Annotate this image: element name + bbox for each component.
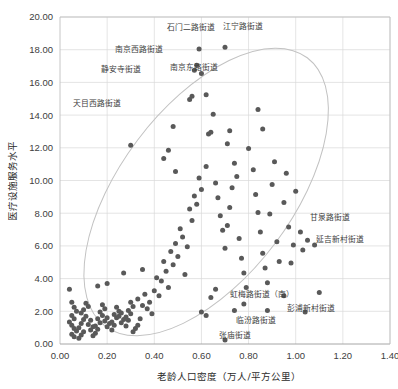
data-point bbox=[147, 300, 152, 305]
chart-canvas: 0.002.004.006.008.0010.0012.0014.0016.00… bbox=[0, 0, 398, 389]
point-annotation-label: 静安寺街道 bbox=[101, 64, 141, 74]
data-point bbox=[166, 148, 171, 153]
data-point bbox=[83, 301, 88, 306]
data-point bbox=[305, 238, 310, 243]
x-tick-label: 0.40 bbox=[145, 350, 164, 361]
data-point bbox=[218, 213, 223, 218]
data-point bbox=[241, 270, 246, 275]
data-point bbox=[126, 308, 131, 313]
data-point bbox=[204, 313, 209, 318]
data-point bbox=[131, 329, 136, 334]
data-point bbox=[145, 306, 150, 311]
data-point bbox=[166, 285, 171, 290]
data-point bbox=[91, 333, 96, 338]
data-point bbox=[124, 324, 129, 329]
data-point bbox=[289, 261, 294, 266]
data-point bbox=[128, 143, 133, 148]
data-point bbox=[138, 316, 143, 321]
x-tick-label: 0.60 bbox=[192, 350, 211, 361]
data-point bbox=[208, 130, 213, 135]
data-point bbox=[102, 319, 107, 324]
y-tick-label: 6.00 bbox=[35, 240, 54, 251]
data-point bbox=[244, 285, 249, 290]
scatter-chart: 0.002.004.006.008.0010.0012.0014.0016.00… bbox=[0, 0, 398, 389]
data-point bbox=[187, 207, 192, 212]
data-point bbox=[81, 307, 86, 312]
data-point bbox=[112, 312, 117, 317]
data-point bbox=[197, 176, 202, 181]
y-tick-label: 8.00 bbox=[35, 208, 54, 219]
data-point bbox=[152, 288, 157, 293]
point-annotation-label: 延吉新村街道 bbox=[316, 234, 364, 244]
data-point bbox=[256, 107, 261, 112]
point-annotation-label: 江宁路街道 bbox=[223, 21, 263, 31]
y-tick-label: 4.00 bbox=[35, 273, 54, 284]
data-point bbox=[204, 92, 209, 97]
data-point bbox=[124, 315, 129, 320]
data-point bbox=[116, 314, 121, 319]
point-annotation-label: 彭浦新村街道 bbox=[287, 303, 335, 313]
data-point bbox=[213, 287, 218, 292]
x-axis-title: 老龄人口密度（万人/平方公里） bbox=[157, 371, 300, 382]
data-point bbox=[281, 200, 286, 205]
data-point bbox=[173, 241, 178, 246]
point-annotation-label: 天目西路街道 bbox=[73, 98, 121, 108]
data-point bbox=[149, 311, 154, 316]
point-annotation-label: 南京西路街道 bbox=[115, 44, 163, 54]
data-point bbox=[194, 202, 199, 207]
data-point bbox=[267, 212, 272, 217]
data-point bbox=[164, 269, 169, 274]
data-point bbox=[256, 210, 261, 215]
y-tick-label: 2.00 bbox=[35, 306, 54, 317]
point-annotation-label: 虹梅路街道（南） bbox=[230, 289, 294, 299]
data-point bbox=[161, 156, 166, 161]
data-point bbox=[171, 262, 176, 267]
x-tick-label: 0.00 bbox=[51, 350, 70, 361]
data-point bbox=[81, 329, 86, 334]
data-point bbox=[135, 297, 140, 302]
data-point bbox=[161, 259, 166, 264]
data-point bbox=[95, 316, 100, 321]
data-point bbox=[72, 334, 77, 339]
data-point bbox=[157, 293, 162, 298]
data-point bbox=[227, 128, 232, 133]
data-point bbox=[171, 124, 176, 129]
data-point bbox=[105, 281, 110, 286]
data-point bbox=[159, 279, 164, 284]
data-point bbox=[83, 314, 88, 319]
y-tick-label: 14.00 bbox=[29, 110, 53, 121]
data-point bbox=[114, 305, 119, 310]
data-point bbox=[140, 267, 145, 272]
y-tick-label: 16.00 bbox=[29, 77, 53, 88]
data-point bbox=[211, 112, 216, 117]
data-point bbox=[175, 254, 180, 259]
data-point bbox=[185, 244, 190, 249]
data-point bbox=[291, 243, 296, 248]
data-point bbox=[232, 308, 237, 313]
data-point bbox=[168, 249, 173, 254]
data-point bbox=[86, 322, 91, 327]
data-point bbox=[100, 302, 105, 307]
data-point bbox=[241, 301, 246, 306]
data-point bbox=[270, 182, 275, 187]
data-point bbox=[237, 236, 242, 241]
data-point bbox=[72, 316, 77, 321]
data-point bbox=[284, 171, 289, 176]
data-point bbox=[182, 272, 187, 277]
data-point bbox=[135, 323, 140, 328]
data-point bbox=[227, 205, 232, 210]
x-tick-label: 1.40 bbox=[381, 350, 398, 361]
data-point bbox=[192, 194, 197, 199]
data-point bbox=[277, 259, 282, 264]
data-point bbox=[140, 303, 145, 308]
data-point bbox=[230, 185, 235, 190]
data-point bbox=[105, 324, 110, 329]
data-point bbox=[109, 328, 114, 333]
point-annotation-label: 石门二路街道 bbox=[167, 22, 215, 32]
data-point bbox=[178, 226, 183, 231]
data-point bbox=[300, 247, 305, 252]
data-point bbox=[119, 320, 124, 325]
data-point bbox=[225, 141, 230, 146]
data-point bbox=[95, 283, 100, 288]
data-point bbox=[223, 45, 228, 50]
